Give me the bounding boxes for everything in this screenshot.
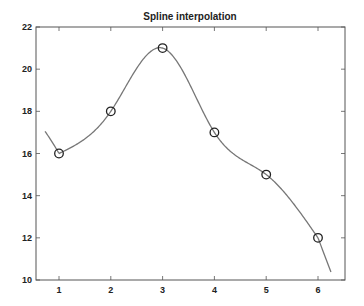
x-tick-label: 4 [212,285,217,295]
y-tick-label: 18 [22,106,32,116]
x-tick-label: 6 [315,285,320,295]
chart-title: Spline interpolation [143,11,236,22]
y-tick-label: 10 [22,275,32,285]
x-tick-label: 5 [264,285,269,295]
y-tick-label: 20 [22,64,32,74]
y-tick-label: 14 [22,191,32,201]
x-tick-label: 1 [56,285,61,295]
spline-chart: Spline interpolation 10121416182022 1234… [0,0,364,306]
y-tick-label: 22 [22,22,32,32]
y-tick-label: 16 [22,149,32,159]
y-tick-label: 12 [22,233,32,243]
plot-area [36,27,345,280]
x-tick-label: 2 [108,285,113,295]
x-tick-label: 3 [160,285,165,295]
